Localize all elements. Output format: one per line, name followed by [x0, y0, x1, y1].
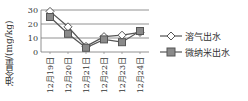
data-point	[47, 14, 54, 21]
x-tick-label: 12月21日	[82, 57, 91, 93]
legend-label: 溶气出水	[185, 30, 221, 43]
data-point	[101, 36, 108, 43]
y-tick-label: 30	[28, 6, 38, 15]
series-line	[50, 17, 140, 48]
data-point	[65, 30, 72, 37]
legend-square-marker-icon	[160, 47, 182, 57]
legend-diamond-marker-icon	[160, 31, 182, 41]
y-tick-label: 10	[28, 34, 38, 43]
x-tick-label: 12月23日	[118, 57, 127, 93]
y-tick-label: 20	[28, 20, 38, 29]
x-tick-label: 12月20日	[64, 57, 73, 93]
x-tick-label: 12月19日	[46, 57, 55, 93]
legend: 溶气出水 微纳米出水	[160, 28, 230, 60]
x-tick-label: 12月24日	[136, 57, 145, 93]
data-point	[137, 28, 144, 35]
y-tick-label: 0	[33, 48, 38, 57]
legend-item-series-2: 微纳米出水	[160, 44, 230, 60]
y-axis-label: 油含量/(mg/kg)	[2, 18, 16, 88]
legend-item-series-1: 溶气出水	[160, 28, 230, 44]
data-point	[83, 44, 90, 51]
legend-label: 微纳米出水	[185, 46, 230, 59]
x-tick-label: 12月22日	[100, 57, 109, 93]
data-point	[119, 39, 126, 46]
